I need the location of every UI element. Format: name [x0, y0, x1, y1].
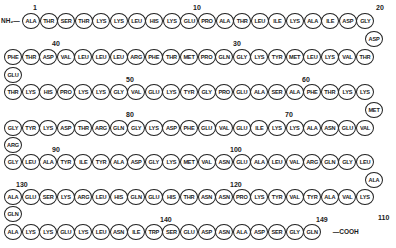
position-number: 60 — [302, 76, 310, 83]
residue: LYS — [286, 13, 304, 29]
residue: SER — [162, 224, 180, 240]
residue: ALA — [22, 13, 40, 29]
residue: VAL — [286, 154, 304, 170]
residue: GLU — [145, 84, 163, 100]
residue: THR — [356, 49, 374, 65]
residue: ASN — [215, 154, 233, 170]
residue: ALA — [110, 154, 128, 170]
residue: GLN — [215, 49, 233, 65]
residue: ASP — [39, 49, 57, 65]
residue: GLN — [303, 224, 321, 240]
position-number: 130 — [16, 181, 28, 188]
position-number: 30 — [233, 40, 241, 47]
residue: ALA — [250, 84, 268, 100]
residue-connector: GLU — [4, 67, 22, 83]
residue: GLU — [338, 120, 356, 136]
position-number: 110 — [378, 214, 389, 221]
residue: LYS — [22, 84, 40, 100]
residue: GLU — [233, 154, 251, 170]
residue: TRP — [145, 224, 163, 240]
residue: TYR — [92, 154, 110, 170]
residue: ALA — [321, 189, 339, 205]
residue: TYR — [180, 84, 198, 100]
residue: ASN — [215, 224, 233, 240]
residue: LYS — [250, 189, 268, 205]
residue: GLY — [127, 120, 145, 136]
residue: PRO — [215, 84, 233, 100]
position-number: 120 — [230, 181, 242, 188]
residue: GLU — [22, 189, 40, 205]
position-number: 20 — [376, 4, 384, 11]
position-number: 70 — [285, 111, 293, 118]
residue: THR — [162, 49, 180, 65]
residue: LYS — [338, 84, 356, 100]
residue: VAL — [356, 120, 374, 136]
position-number: 1 — [33, 4, 37, 11]
residue: LYS — [321, 49, 339, 65]
residue: LEU — [74, 49, 92, 65]
residue: ARG — [92, 120, 110, 136]
residue: ILE — [321, 13, 339, 29]
residue: LEU — [303, 49, 321, 65]
residue: THR — [233, 13, 251, 29]
residue: PHE — [145, 49, 163, 65]
residue: ASP — [339, 13, 357, 29]
residue: ALA — [233, 224, 251, 240]
c-terminus: —COOH — [333, 228, 359, 235]
residue: ALA — [4, 189, 22, 205]
residue: ARG — [303, 154, 321, 170]
residue: TYR — [22, 120, 40, 136]
residue-connector: MET — [365, 102, 383, 118]
residue: THR — [4, 84, 22, 100]
position-number: 90 — [52, 146, 60, 153]
residue: VAL — [215, 120, 233, 136]
residue: VAL — [286, 189, 304, 205]
residue: LYS — [162, 84, 180, 100]
residue: ALA — [4, 224, 22, 240]
residue: LYS — [74, 224, 92, 240]
residue: LEU — [92, 189, 110, 205]
residue: LEU — [128, 13, 146, 29]
residue: PRO — [57, 84, 75, 100]
residue: GLY — [110, 84, 128, 100]
residue: ALA — [286, 84, 304, 100]
residue: HIS — [162, 189, 180, 205]
residue: ALA — [216, 13, 234, 29]
residue: PRO — [198, 49, 216, 65]
residue: HIS — [110, 189, 128, 205]
position-number: 10 — [193, 4, 201, 11]
residue-connector: ASP — [365, 31, 383, 47]
residue: SER — [268, 224, 286, 240]
residue: ASP — [57, 120, 75, 136]
residue: LYS — [356, 189, 374, 205]
residue: ILE — [127, 224, 145, 240]
residue: THR — [22, 49, 40, 65]
residue: LYS — [110, 13, 128, 29]
residue: HIS — [39, 84, 57, 100]
residue: GLU — [57, 224, 75, 240]
residue-connector: ARG — [4, 137, 22, 153]
residue: ASN — [198, 189, 216, 205]
residue: ARG — [74, 189, 92, 205]
residue: LYS — [145, 120, 163, 136]
residue: LEU — [251, 13, 269, 29]
residue: LYS — [92, 13, 110, 29]
residue: LYS — [39, 224, 57, 240]
residue: MET — [180, 154, 198, 170]
residue: LYS — [356, 84, 374, 100]
position-number: 149 — [316, 216, 328, 223]
residue: VAL — [198, 154, 216, 170]
residue: ARG — [127, 49, 145, 65]
residue: ASP — [127, 154, 145, 170]
residue: GLU — [180, 224, 198, 240]
residue: LEU — [22, 154, 40, 170]
residue: ALA — [250, 154, 268, 170]
residue: THR — [321, 84, 339, 100]
residue: GLY — [145, 154, 163, 170]
residue: SER — [57, 13, 75, 29]
residue: GLU — [233, 120, 251, 136]
residue: GLU — [145, 189, 163, 205]
residue: GLN — [127, 189, 145, 205]
residue: VAL — [127, 84, 145, 100]
residue: HIS — [145, 13, 163, 29]
